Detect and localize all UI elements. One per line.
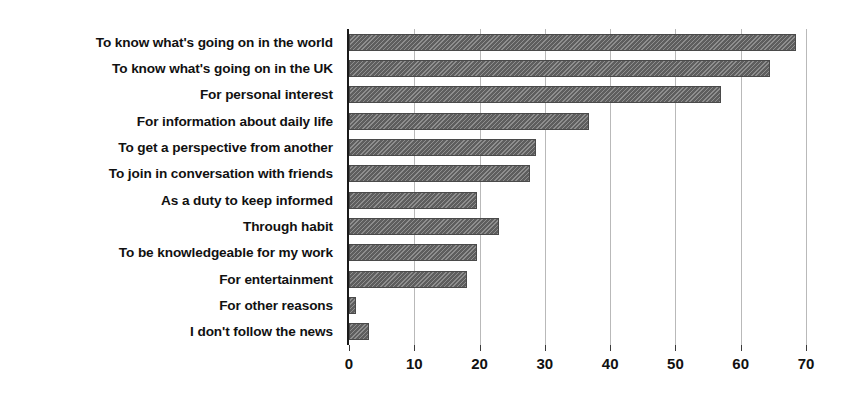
tick-label-50: 50 — [655, 355, 695, 372]
tick-label-70: 70 — [786, 355, 826, 372]
bar-chart: To know what's going on in the worldTo k… — [0, 0, 851, 395]
bar — [349, 192, 477, 209]
bar — [349, 139, 536, 156]
tick-mark-30 — [545, 345, 546, 351]
bar — [349, 323, 369, 340]
tick-label-20: 20 — [460, 355, 500, 372]
category-label: To join in conversation with friends — [0, 166, 333, 181]
tick-mark-50 — [675, 345, 676, 351]
tick-mark-40 — [610, 345, 611, 351]
tick-label-10: 10 — [394, 355, 434, 372]
category-label: To know what's going on in the UK — [0, 61, 333, 76]
tick-mark-20 — [480, 345, 481, 351]
category-label: Through habit — [0, 219, 333, 234]
category-label: For information about daily life — [0, 114, 333, 129]
bar — [349, 165, 530, 182]
bar — [349, 218, 499, 235]
tick-mark-10 — [414, 345, 415, 351]
tick-mark-60 — [741, 345, 742, 351]
category-label: As a duty to keep informed — [0, 193, 333, 208]
category-axis-labels: To know what's going on in the worldTo k… — [0, 29, 341, 345]
plot-area — [349, 29, 806, 345]
category-label: To be knowledgeable for my work — [0, 245, 333, 260]
tick-label-60: 60 — [721, 355, 761, 372]
bar — [349, 60, 770, 77]
bar — [349, 244, 477, 261]
tick-label-0: 0 — [329, 355, 369, 372]
value-axis: 010203040506070 — [349, 345, 806, 385]
category-label: To know what's going on in the world — [0, 35, 333, 50]
bar — [349, 297, 356, 314]
category-label: For entertainment — [0, 272, 333, 287]
bar — [349, 34, 796, 51]
bar — [349, 271, 467, 288]
bar — [349, 86, 721, 103]
tick-label-30: 30 — [525, 355, 565, 372]
category-label: To get a perspective from another — [0, 140, 333, 155]
category-label: For personal interest — [0, 87, 333, 102]
category-label: For other reasons — [0, 298, 333, 313]
tick-mark-70 — [806, 345, 807, 351]
tick-label-40: 40 — [590, 355, 630, 372]
bar — [349, 113, 589, 130]
gridline-70 — [806, 29, 807, 345]
tick-mark-0 — [349, 345, 350, 351]
category-label: I don't follow the news — [0, 324, 333, 339]
